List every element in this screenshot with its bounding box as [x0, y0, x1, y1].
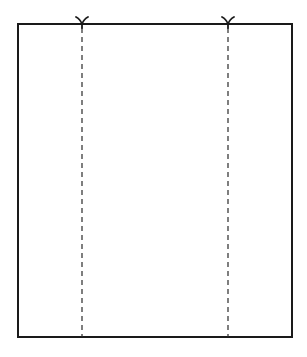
background — [0, 0, 307, 357]
fold-diagram — [0, 0, 307, 357]
